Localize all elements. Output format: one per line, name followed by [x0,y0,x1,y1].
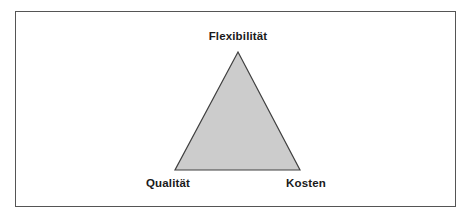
vertex-label-top: Flexibilität [0,30,472,43]
vertex-label-bottom-right: Kosten [286,177,326,190]
vertex-label-top-text: Flexibilität [209,30,268,42]
figure-canvas: Flexibilität Qualität Kosten [0,0,472,221]
vertex-label-bottom-left: Qualität [146,177,190,190]
